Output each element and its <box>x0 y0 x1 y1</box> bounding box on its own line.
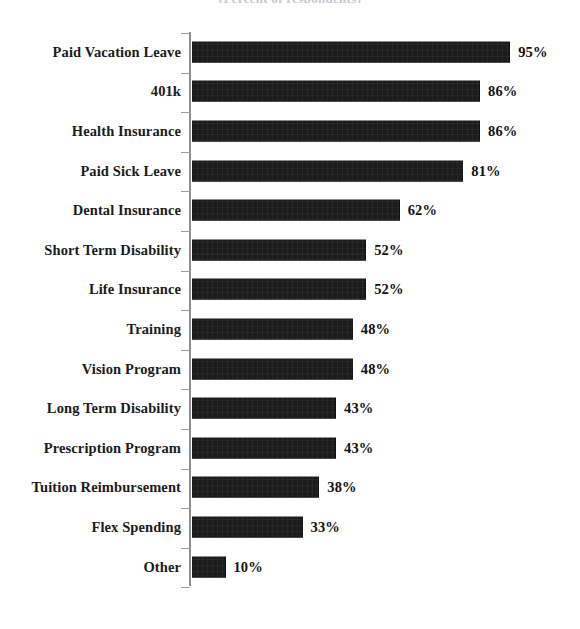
bar-category-label: Vision Program <box>82 360 181 377</box>
bar-track <box>192 318 353 339</box>
bar <box>192 239 366 260</box>
bar <box>192 120 480 141</box>
bar-chart: (Percent of respondents) Paid Vacation L… <box>0 0 580 629</box>
axis-tick <box>181 587 190 588</box>
bar-track <box>192 358 353 379</box>
bar-category-label: Tuition Reimbursement <box>32 479 181 496</box>
bar-row: Flex Spending33% <box>0 507 580 547</box>
bar-track <box>192 41 510 62</box>
bar-row: Health Insurance86% <box>0 111 580 151</box>
bar-value-label: 86% <box>488 122 517 139</box>
plot-area: Paid Vacation Leave95%401k86%Health Insu… <box>0 30 580 590</box>
bar <box>192 200 400 221</box>
bar-row: Prescription Program43% <box>0 428 580 468</box>
bar-value-label: 52% <box>374 281 403 298</box>
bar-row: Dental Insurance62% <box>0 190 580 230</box>
bar <box>192 477 319 498</box>
bar-value-label: 48% <box>361 360 390 377</box>
bar <box>192 556 226 577</box>
bar-track <box>192 239 366 260</box>
bar-value-label: 62% <box>408 202 437 219</box>
bar <box>192 437 336 458</box>
bar-category-label: Health Insurance <box>72 122 181 139</box>
bar-category-label: Life Insurance <box>89 281 181 298</box>
bar-value-label: 10% <box>234 558 263 575</box>
bar <box>192 398 336 419</box>
bar-track <box>192 279 366 300</box>
bar-value-label: 38% <box>327 479 356 496</box>
bar-track <box>192 160 463 181</box>
bar-track <box>192 516 303 537</box>
bar-value-label: 33% <box>311 518 340 535</box>
bar <box>192 358 353 379</box>
bar-track <box>192 81 480 102</box>
bar-track <box>192 200 400 221</box>
bar <box>192 279 366 300</box>
bar-category-label: Short Term Disability <box>44 241 181 258</box>
bar-row: Training48% <box>0 309 580 349</box>
bar <box>192 516 303 537</box>
bar-row: Vision Program48% <box>0 349 580 389</box>
bar-category-label: Paid Sick Leave <box>80 162 181 179</box>
bar-track <box>192 437 336 458</box>
bar-category-label: Paid Vacation Leave <box>53 43 181 60</box>
bar <box>192 81 480 102</box>
bar-category-label: 401k <box>151 83 181 100</box>
bar-track <box>192 398 336 419</box>
bar-category-label: Dental Insurance <box>73 202 181 219</box>
bar-value-label: 95% <box>518 43 547 60</box>
bar-value-label: 43% <box>344 439 373 456</box>
bar <box>192 318 353 339</box>
bar-track <box>192 477 319 498</box>
bar-track <box>192 556 226 577</box>
bar-category-label: Long Term Disability <box>47 400 181 417</box>
bar-category-label: Training <box>126 320 181 337</box>
bar-value-label: 81% <box>471 162 500 179</box>
bar-category-label: Prescription Program <box>44 439 181 456</box>
bar-value-label: 43% <box>344 400 373 417</box>
bar-category-label: Flex Spending <box>91 518 181 535</box>
bar-row: Life Insurance52% <box>0 270 580 310</box>
bar <box>192 160 463 181</box>
bar-track <box>192 120 480 141</box>
bar-value-label: 48% <box>361 320 390 337</box>
bar-row: Long Term Disability43% <box>0 388 580 428</box>
chart-title: (Percent of respondents) <box>0 0 580 3</box>
bar-row: Paid Vacation Leave95% <box>0 32 580 72</box>
bar-row: Short Term Disability52% <box>0 230 580 270</box>
bar-value-label: 52% <box>374 241 403 258</box>
bar-row: Tuition Reimbursement38% <box>0 468 580 508</box>
bar-row: Paid Sick Leave81% <box>0 151 580 191</box>
bar-category-label: Other <box>143 558 181 575</box>
bar <box>192 41 510 62</box>
bar-row: Other10% <box>0 547 580 587</box>
bar-row: 401k86% <box>0 72 580 112</box>
bar-value-label: 86% <box>488 83 517 100</box>
